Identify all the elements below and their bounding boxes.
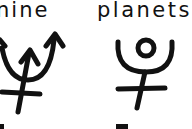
pluto-icon <box>118 40 172 108</box>
neptune-icon <box>0 34 63 112</box>
cropped-text-fragments <box>0 124 128 129</box>
symbols-drawing <box>0 0 192 129</box>
